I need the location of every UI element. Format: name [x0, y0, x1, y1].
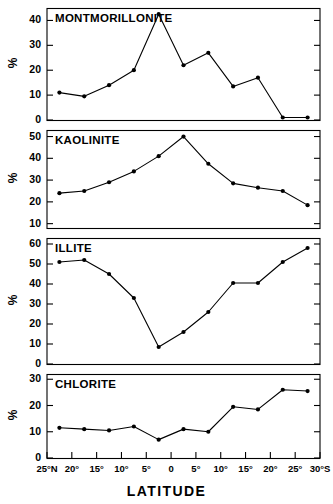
data-point-marker	[181, 134, 185, 138]
data-point-marker	[206, 430, 210, 434]
data-point-marker	[157, 12, 161, 16]
data-point-marker	[206, 51, 210, 55]
data-point-marker	[82, 427, 86, 431]
plot-frame	[47, 131, 320, 229]
data-point-marker	[107, 83, 111, 87]
data-point-marker	[256, 407, 260, 411]
data-point-marker	[231, 181, 235, 185]
data-point-marker	[132, 296, 136, 300]
data-point-marker	[57, 91, 61, 95]
data-point-marker	[132, 424, 136, 428]
data-point-marker	[107, 272, 111, 276]
data-series-line	[59, 137, 307, 206]
plot-area	[0, 374, 333, 460]
panel-stack: %010203040MONTMORILLONITE%1020304050KAOL…	[0, 0, 333, 470]
data-point-marker	[256, 281, 260, 285]
data-point-marker	[231, 84, 235, 88]
panel-montmorillonite: %010203040MONTMORILLONITE	[0, 8, 333, 120]
data-point-marker	[281, 260, 285, 264]
data-point-marker	[132, 68, 136, 72]
data-point-marker	[256, 186, 260, 190]
data-point-marker	[181, 63, 185, 67]
data-point-marker	[281, 388, 285, 392]
x-axis-title: LATITUDE	[0, 483, 333, 499]
panel-illite: %0102030405060ILLITE	[0, 238, 333, 364]
data-point-marker	[82, 94, 86, 98]
data-point-marker	[305, 389, 309, 393]
panel-kaolinite: %1020304050KAOLINITE	[0, 130, 333, 228]
data-point-marker	[231, 281, 235, 285]
data-point-marker	[256, 76, 260, 80]
data-point-marker	[181, 427, 185, 431]
data-series-line	[59, 390, 307, 440]
data-point-marker	[281, 189, 285, 193]
data-point-marker	[107, 428, 111, 432]
data-point-marker	[157, 345, 161, 349]
data-point-marker	[157, 438, 161, 442]
data-point-marker	[231, 405, 235, 409]
plot-area	[0, 238, 333, 366]
clay-mineral-latitude-figure: %010203040MONTMORILLONITE%1020304050KAOL…	[0, 0, 333, 504]
data-point-marker	[57, 260, 61, 264]
data-point-marker	[305, 203, 309, 207]
data-point-marker	[82, 258, 86, 262]
data-point-marker	[132, 169, 136, 173]
plot-frame	[47, 375, 320, 459]
data-point-marker	[206, 310, 210, 314]
panel-chlorite: %0102030CHLORITE	[0, 374, 333, 458]
data-point-marker	[206, 162, 210, 166]
data-point-marker	[57, 191, 61, 195]
data-point-marker	[82, 189, 86, 193]
data-point-marker	[157, 154, 161, 158]
plot-area	[0, 130, 333, 230]
data-point-marker	[305, 246, 309, 250]
data-point-marker	[181, 330, 185, 334]
data-point-marker	[281, 115, 285, 119]
data-point-marker	[107, 180, 111, 184]
x-tick-label: 30°S	[300, 463, 333, 474]
plot-area	[0, 8, 333, 122]
plot-frame	[47, 239, 320, 365]
data-point-marker	[57, 426, 61, 430]
data-point-marker	[305, 115, 309, 119]
